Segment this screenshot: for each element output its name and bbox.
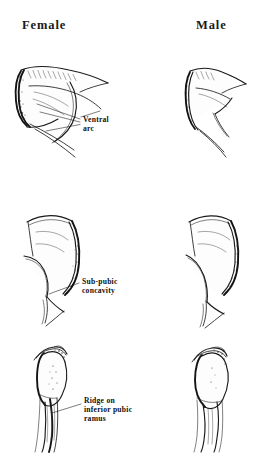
specimen-female-subpubic-concavity	[24, 216, 79, 326]
specimen-male-subpubic-concavity	[186, 216, 238, 328]
callout-inferior-pubic-ramus-line2: inferior pubic	[84, 405, 132, 414]
callout-inferior-pubic-ramus: Ridge on inferior pubic ramus	[84, 396, 132, 424]
specimen-male-ventral-arc	[184, 68, 246, 157]
callout-subpubic-concavity: Sub-pubic concavity	[82, 277, 118, 295]
specimen-female-ventral-arc	[16, 67, 108, 157]
specimen-male-inferior-ramus	[192, 347, 228, 452]
specimen-female-inferior-ramus	[34, 346, 81, 452]
callout-inferior-pubic-ramus-line3: ramus	[84, 414, 132, 423]
callout-subpubic-concavity-line2: concavity	[82, 286, 118, 295]
callout-ventral-arc-line1: Ventral	[83, 115, 109, 124]
anatomical-figure-plate: Female Male .ol { fill:none; stroke:#1d1…	[0, 0, 258, 453]
callout-ventral-arc-line2: arc	[83, 124, 109, 133]
callout-inferior-pubic-ramus-line1: Ridge on	[84, 396, 132, 405]
callout-ventral-arc: Ventral arc	[83, 115, 109, 133]
specimen-drawings-layer: .ol { fill:none; stroke:#1d1d1d; stroke-…	[0, 0, 258, 453]
callout-subpubic-concavity-line1: Sub-pubic	[82, 277, 118, 286]
